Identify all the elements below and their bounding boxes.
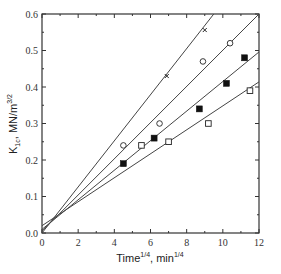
y-tick-label: 0.0 <box>26 228 39 239</box>
marker-cross <box>203 28 207 32</box>
x-tick-label: 8 <box>184 237 189 248</box>
x-tick-label: 4 <box>112 237 117 248</box>
marker-open-square <box>247 88 253 94</box>
y-axis-label: K1c, MN/m3/2 <box>6 94 21 154</box>
marker-open-square <box>139 143 145 149</box>
marker-open-square <box>206 121 212 127</box>
fit-line-cross <box>42 14 214 233</box>
y-tick-label: 0.6 <box>26 9 39 20</box>
marker-filled-square <box>242 55 248 61</box>
fit-line-open-square <box>42 82 259 226</box>
y-tick-label: 0.1 <box>26 191 39 202</box>
marker-filled-square <box>151 135 157 141</box>
x-tick-label: 10 <box>218 237 228 248</box>
y-tick-label: 0.3 <box>26 118 39 129</box>
marker-filled-square <box>196 106 202 112</box>
y-tick-label: 0.4 <box>26 82 39 93</box>
marker-filled-square <box>223 80 229 86</box>
y-tick-label: 0.5 <box>26 45 39 56</box>
x-tick-label: 0 <box>40 237 45 248</box>
fit-line-filled-square <box>42 52 259 229</box>
marker-open-square <box>166 139 172 145</box>
chart: 0246810120.00.10.20.30.40.50.6 Time1/4, … <box>0 0 281 274</box>
x-tick-label: 6 <box>148 237 153 248</box>
marker-open-circle <box>157 121 163 127</box>
marker-filled-square <box>120 161 126 167</box>
marker-open-circle <box>121 143 127 149</box>
fit-lines <box>42 14 259 233</box>
y-tick-label: 0.2 <box>26 155 39 166</box>
marker-open-circle <box>200 59 206 65</box>
marker-open-circle <box>227 40 233 46</box>
fit-line-open-circle <box>42 14 259 231</box>
x-axis-label: Time1/4, min1/4 <box>116 251 183 264</box>
x-tick-label: 12 <box>254 237 264 248</box>
x-tick-label: 2 <box>76 237 81 248</box>
